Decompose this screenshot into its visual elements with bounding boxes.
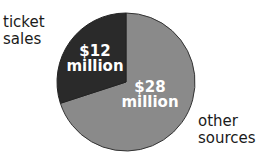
label-ticket-line2: sales [3,31,45,48]
label-other-line1: other [198,113,256,130]
label-ticket-sales: ticket sales [3,14,45,48]
pie-chart: ticket sales other sources $12 million $… [0,0,260,161]
value-other-line2: million [118,95,182,110]
label-ticket-line1: ticket [3,14,45,31]
value-ticket-sales: $12 million [64,44,126,74]
label-other-line2: sources [198,130,256,147]
value-other-sources: $28 million [118,80,182,110]
value-ticket-line2: million [64,59,126,74]
label-other-sources: other sources [198,113,256,147]
